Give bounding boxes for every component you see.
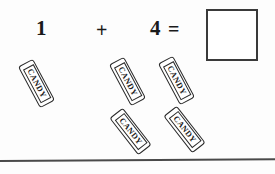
- candy-label: CANDY: [168, 111, 201, 148]
- candy-label-text: CANDY: [117, 116, 144, 146]
- horizontal-divider: [0, 158, 275, 161]
- candy-bar: CANDY: [163, 106, 205, 154]
- equals-sign: =: [168, 19, 179, 39]
- candy-bar: CANDY: [158, 56, 195, 105]
- math-worksheet: 1 + 4 = CANDY CANDY CANDY CANDY CANDY: [0, 0, 275, 174]
- candy-label-text: CANDY: [165, 64, 188, 96]
- answer-box[interactable]: [206, 9, 258, 61]
- candy-label: CANDY: [22, 64, 50, 103]
- candy-label-text: CANDY: [25, 67, 48, 99]
- candy-label: CANDY: [162, 61, 190, 100]
- candy-label-text: CANDY: [116, 65, 139, 97]
- candy-label: CANDY: [114, 113, 147, 150]
- candy-label: CANDY: [113, 62, 141, 101]
- plus-sign: +: [96, 20, 107, 40]
- candy-bar: CANDY: [18, 59, 55, 108]
- candy-bar: CANDY: [109, 57, 146, 106]
- candy-label-text: CANDY: [171, 114, 198, 144]
- second-addend: 4: [150, 18, 161, 39]
- candy-bar: CANDY: [109, 108, 151, 156]
- first-addend: 1: [36, 18, 47, 39]
